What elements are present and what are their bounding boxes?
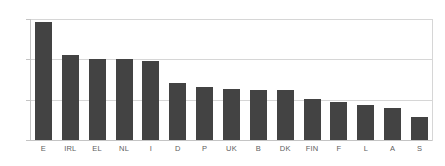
bar	[35, 22, 52, 140]
bar	[250, 90, 267, 140]
gridline-0	[30, 140, 433, 141]
x-category-label: F	[326, 145, 353, 153]
x-category-label: B	[245, 145, 272, 153]
x-category-label: L	[352, 145, 379, 153]
bar	[223, 89, 240, 140]
bar	[330, 102, 347, 140]
y-tick-0	[26, 140, 30, 141]
x-category-label: P	[191, 145, 218, 153]
bar	[304, 99, 321, 140]
x-category-label: A	[379, 145, 406, 153]
bar-chart: 04008001,200 EIRLELNLIDPUKBDKFINFLAS	[0, 0, 445, 166]
bar	[142, 61, 159, 140]
x-category-label: D	[164, 145, 191, 153]
bar	[384, 108, 401, 140]
bar	[116, 59, 133, 140]
x-category-label: EL	[84, 145, 111, 153]
bar	[357, 105, 374, 140]
bars-layer	[30, 19, 433, 140]
x-category-label: S	[406, 145, 433, 153]
bar	[196, 87, 213, 140]
x-category-label: IRL	[57, 145, 84, 153]
x-category-label: I	[137, 145, 164, 153]
bar	[89, 59, 106, 140]
bar	[411, 117, 428, 140]
x-category-label: DK	[272, 145, 299, 153]
bar	[62, 55, 79, 140]
x-category-label: FIN	[299, 145, 326, 153]
x-category-label: E	[30, 145, 57, 153]
bar	[277, 90, 294, 140]
bar	[169, 83, 186, 140]
x-category-label: NL	[111, 145, 138, 153]
x-category-label: UK	[218, 145, 245, 153]
